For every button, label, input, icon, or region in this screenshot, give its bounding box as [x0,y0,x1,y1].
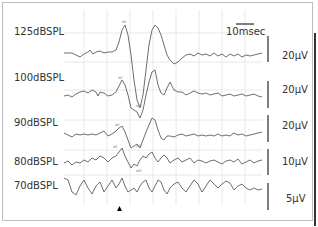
svg-text:wII: wII [136,168,142,173]
grid [64,10,262,205]
amp-scale-label-2: 20µV [282,84,308,95]
svg-text:wI: wI [118,75,122,80]
trace-80dbspl [64,148,262,168]
trace-label-70: 70dBSPL [14,180,58,191]
svg-text:wII: wII [136,103,142,108]
trace-90dbspl [64,118,262,148]
amp-scale-label-4: 10µV [282,156,308,167]
trace-label-90: 90dBSPL [14,117,58,128]
svg-text:wII: wII [136,143,142,148]
trace-label-100: 100dBSPL [14,72,64,83]
time-scale-label: 10msec [226,26,265,37]
trace-100dbspl [64,70,262,118]
traces [64,25,262,195]
trace-label-125: 125dBSPL [14,26,64,37]
svg-text:wI: wI [122,19,126,24]
amp-scale-label-5: 5µV [286,193,306,204]
amp-scale-label-3: 20µV [282,120,308,131]
amp-scale-label-1: 20µV [282,50,308,61]
stimulus-onset-triangle-icon [117,206,122,211]
svg-text:wI: wI [113,144,117,149]
trace-70dbspl [64,178,262,195]
trace-label-80: 80dBSPL [14,156,58,167]
svg-text:wI: wI [115,122,119,127]
